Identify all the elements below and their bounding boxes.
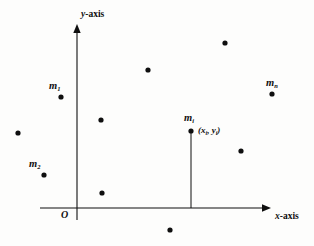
y-axis-label: y-axis [81, 10, 104, 20]
label-mn: mn [266, 78, 278, 89]
point-m1 [58, 94, 63, 99]
label-m1-subscript: 1 [57, 85, 60, 92]
coordinate-plot [0, 0, 314, 246]
y-axis-arrowhead [73, 24, 80, 33]
point-unlabeled-6 [99, 190, 104, 195]
origin-label: O [61, 210, 68, 220]
point-unlabeled-2 [222, 40, 227, 45]
x-axis-label: x-axis [275, 212, 299, 222]
x-axis [40, 204, 271, 211]
coordinate-pair-label: (xi, yi) [198, 126, 220, 135]
y-axis-label-rest: -axis [85, 9, 104, 19]
label-m1-base: m [49, 80, 57, 91]
point-unlabeled-3 [98, 117, 103, 122]
point-unlabeled-4 [15, 130, 20, 135]
coord-x-subscript: i [206, 130, 208, 136]
label-mi-subscript: i [192, 117, 194, 124]
label-m2-subscript: 2 [37, 163, 40, 170]
point-unlabeled-5 [238, 148, 243, 153]
label-mi: mi [184, 113, 194, 124]
point-unlabeled-7 [167, 227, 172, 232]
x-axis-label-rest: -axis [280, 211, 299, 221]
point-unlabeled-1 [145, 67, 150, 72]
label-mn-base: m [266, 77, 274, 88]
label-m2-base: m [29, 158, 37, 169]
figure-canvas: y-axis x-axis O m1 m2 mi mn (xi, yi) [0, 0, 314, 246]
point-m2 [41, 172, 46, 177]
label-m1: m1 [49, 81, 60, 92]
label-mn-subscript: n [274, 82, 278, 89]
y-axis [73, 24, 80, 220]
coord-close-paren: ) [217, 125, 220, 135]
label-mi-base: m [184, 112, 192, 123]
point-mn [269, 91, 274, 96]
label-m2: m2 [29, 159, 40, 170]
point-mi [188, 128, 193, 133]
coord-x-base: x [201, 125, 206, 135]
x-axis-arrowhead [262, 204, 271, 211]
